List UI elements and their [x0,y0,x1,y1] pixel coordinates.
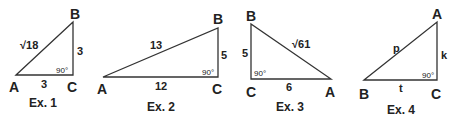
side-ac-ex2: 12 [155,81,167,92]
side-ca-ex3: 6 [286,82,292,93]
caption-ex3: Ex. 3 [276,101,304,113]
vertex-b-ex1: B [70,7,80,21]
vertex-b-ex3: B [246,9,256,23]
vertex-c-ex1: C [67,80,77,94]
right-angle-ex3: 90° [254,70,266,78]
vertex-a-ex3: A [325,85,335,99]
vertex-c-ex4: C [431,87,441,101]
vertex-b-ex4: B [359,87,369,101]
side-bc-ex2: 5 [221,50,227,61]
triangle-ex2 [103,28,218,77]
caption-ex2: Ex. 2 [147,101,175,113]
caption-ex4: Ex. 4 [387,104,415,116]
caption-ex1: Ex. 1 [29,97,57,109]
vertex-a-ex1: A [9,80,19,94]
side-ac-ex4: k [441,50,447,61]
hypotenuse-ex4: p [393,43,400,54]
side-ac-ex1: 3 [41,79,47,90]
right-angle-ex1: 90° [56,67,68,75]
vertex-a-ex2: A [97,82,107,96]
hypotenuse-ex2: 13 [150,40,162,51]
right-angle-ex2: 90° [202,69,214,77]
hypotenuse-ex3: √61 [292,39,310,50]
side-bc-ex3: 5 [242,48,248,59]
vertex-a-ex4: A [432,7,442,21]
hypotenuse-ex1: √18 [20,40,38,51]
right-angle-ex4: 90° [422,72,434,80]
side-bc-ex4: t [399,83,403,94]
vertex-c-ex3: C [246,85,256,99]
vertex-c-ex2: C [212,82,222,96]
side-bc-ex1: 3 [77,46,83,57]
vertex-b-ex2: B [213,12,223,26]
